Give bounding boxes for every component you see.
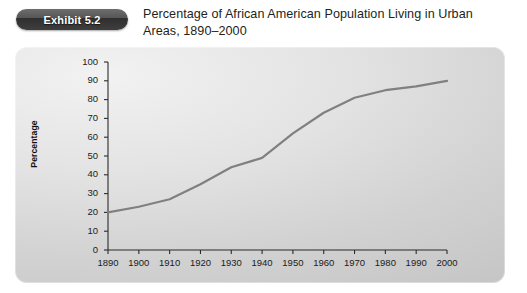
exhibit-number-badge: Exhibit 5.2 [16, 9, 128, 30]
page-title: Percentage of African American Populatio… [143, 6, 515, 39]
data-series-line [108, 81, 447, 213]
chart-title-line-2: Areas, 1890–2000 [143, 23, 515, 40]
plot-svg [15, 47, 505, 283]
axis-tick-marks [104, 62, 447, 254]
exhibit-header: Exhibit 5.2 Percentage of African Americ… [0, 0, 527, 46]
line-chart: Percentage 0102030405060708090100 189019… [15, 47, 505, 283]
figure-panel: Percentage 0102030405060708090100 189019… [15, 47, 505, 283]
chart-title-line-1: Percentage of African American Populatio… [143, 6, 515, 23]
